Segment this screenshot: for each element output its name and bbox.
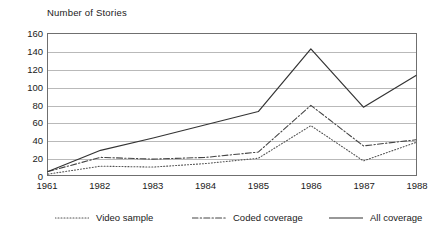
series-line — [48, 49, 416, 172]
x-tick-label: 1983 — [142, 180, 163, 191]
x-tick-label: 1987 — [354, 180, 375, 191]
y-tick-label: 100 — [27, 81, 43, 92]
y-axis: 020406080100120140160 — [0, 33, 43, 176]
chart-legend: Video sampleCoded coverageAll coverage — [47, 212, 417, 232]
legend-label: Video sample — [96, 212, 153, 223]
chart-figure: Number of Stories 020406080100120140160 … — [0, 0, 434, 242]
y-tick-label: 160 — [27, 28, 43, 39]
y-tick-label: 60 — [32, 117, 43, 128]
legend-item: All coverage — [329, 212, 422, 223]
x-axis: 19611982198319841985198619871988 — [47, 180, 417, 196]
x-tick-label: 1984 — [195, 180, 216, 191]
x-tick-label: 1982 — [89, 180, 110, 191]
x-tick-label: 1961 — [36, 180, 57, 191]
legend-line-swatch — [329, 213, 363, 223]
plot-area — [47, 33, 417, 176]
x-tick-label: 1985 — [248, 180, 269, 191]
legend-item: Coded coverage — [192, 212, 303, 223]
legend-label: Coded coverage — [233, 212, 303, 223]
legend-line-swatch — [55, 213, 89, 223]
x-tick-label: 1988 — [406, 180, 427, 191]
y-tick-label: 80 — [32, 99, 43, 110]
y-tick-label: 140 — [27, 45, 43, 56]
legend-item: Video sample — [55, 212, 153, 223]
chart-title: Number of Stories — [47, 7, 127, 18]
series-line — [48, 105, 416, 171]
legend-line-swatch — [192, 213, 226, 223]
x-tick-label: 1986 — [301, 180, 322, 191]
y-tick-label: 120 — [27, 63, 43, 74]
series-layer — [48, 34, 416, 175]
legend-label: All coverage — [370, 212, 422, 223]
y-tick-label: 40 — [32, 135, 43, 146]
y-tick-label: 20 — [32, 153, 43, 164]
